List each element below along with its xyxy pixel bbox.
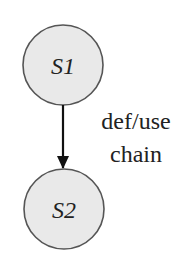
node-s1-label: S1 [51, 53, 75, 79]
def-use-diagram: S1 def/use chain S2 [0, 0, 189, 270]
node-s1: S1 [23, 25, 103, 105]
edge-label-line2: chain [110, 141, 162, 167]
arrowhead-icon [57, 156, 69, 169]
node-s2-label: S2 [52, 197, 76, 223]
edge-label-line1: def/use [101, 108, 170, 134]
edge-s1-s2: def/use chain [57, 105, 171, 169]
node-s2: S2 [24, 169, 104, 249]
